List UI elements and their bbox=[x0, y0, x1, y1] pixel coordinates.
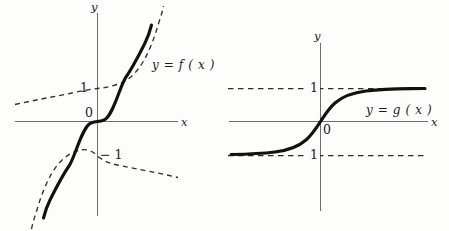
right-x-axis-label: x bbox=[431, 117, 438, 129]
right-y-axis-label: y bbox=[314, 31, 321, 43]
left-curve-equation-label: y = f ( x ) bbox=[152, 59, 215, 71]
left-tick-negative-one-label: − 1 bbox=[100, 149, 122, 162]
left-x-axis-label: x bbox=[181, 117, 188, 129]
left-axes bbox=[15, 13, 178, 216]
left-tick-one-label: 1 bbox=[80, 82, 88, 95]
left-origin-label: 0 bbox=[85, 107, 93, 120]
right-tick-negative-one-label: 1 bbox=[308, 149, 320, 162]
right-curve-equation-label: y = g ( x ) bbox=[366, 104, 432, 116]
right-tick-one-label: 1 bbox=[308, 82, 320, 95]
left-dashed-upper-curve bbox=[15, 6, 164, 105]
left-y-axis-label: y bbox=[91, 2, 98, 14]
figure-container: y x 0 1 − 1 y = f ( x ) y x 0 1 1 y = g … bbox=[0, 0, 449, 231]
right-origin-label: 0 bbox=[323, 124, 331, 137]
